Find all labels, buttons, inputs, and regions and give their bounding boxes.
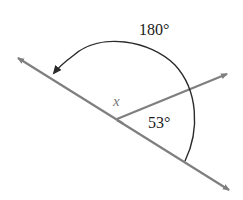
ray [117, 74, 227, 119]
arc-180-arrow [54, 41, 195, 161]
label-53-degrees: 53° [148, 115, 170, 131]
label-angle-x: x [113, 94, 120, 109]
angle-diagram: 180° x 53° [0, 0, 243, 200]
label-180-degrees: 180° [139, 22, 169, 38]
diagram-graphics [0, 0, 243, 200]
main-line [18, 58, 229, 190]
